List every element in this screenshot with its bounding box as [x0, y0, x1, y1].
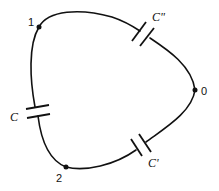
capacitor-c-prime-label: C': [148, 158, 159, 169]
wire-0-to-cprime: [146, 90, 195, 142]
node-1-dot: [37, 25, 42, 30]
wire-c-to-1: [31, 27, 39, 107]
node-1-label: 1: [28, 17, 34, 28]
node-2-label: 2: [56, 173, 62, 184]
capacitor-c-double-prime: [132, 22, 154, 46]
node-0-dot: [193, 88, 198, 93]
capacitor-c: [26, 105, 50, 118]
wire-2-to-c: [38, 116, 66, 167]
capacitor-c-label: C: [10, 112, 18, 123]
wire-cdoubleprime-to-0: [150, 38, 195, 90]
node-2-dot: [64, 165, 69, 170]
wire-cprime-to-2: [66, 150, 136, 169]
circuit-diagram: 1 0 2 C" C' C: [0, 0, 219, 191]
circuit-svg: [0, 0, 219, 191]
capacitor-c-prime: [131, 134, 151, 156]
node-0-label: 0: [201, 86, 207, 97]
capacitor-c-double-prime-label: C": [152, 12, 165, 23]
wire-1-to-cdoubleprime: [39, 12, 140, 31]
